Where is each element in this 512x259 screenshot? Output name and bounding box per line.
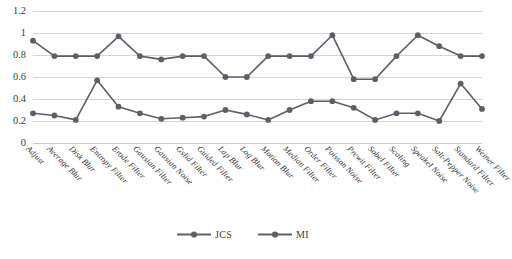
data-point[interactable] [244,74,250,80]
data-point[interactable] [94,77,100,83]
y-axis-tick-label: 0.4 [13,94,26,105]
data-point[interactable] [73,117,79,123]
legend-entry-jcs[interactable]: JCS [177,229,232,240]
data-point[interactable] [458,53,464,59]
data-point[interactable] [479,106,485,112]
legend-marker-jcs [177,229,211,240]
data-point[interactable] [394,110,400,116]
data-point[interactable] [94,53,100,59]
data-point[interactable] [287,107,293,113]
data-point[interactable] [329,98,335,104]
plot-area [33,11,482,143]
legend-entry-mi[interactable]: MI [258,229,309,240]
data-point[interactable] [201,114,207,120]
data-point[interactable] [372,117,378,123]
data-point[interactable] [415,32,421,38]
legend-marker-mi [258,229,292,240]
series-mi [30,77,485,124]
data-point[interactable] [30,38,36,44]
data-point[interactable] [458,81,464,87]
data-point[interactable] [51,53,57,59]
data-point[interactable] [73,53,79,59]
series-layer [33,11,482,143]
data-point[interactable] [137,53,143,59]
data-point[interactable] [265,53,271,59]
data-point[interactable] [287,53,293,59]
data-point[interactable] [351,76,357,82]
data-point[interactable] [116,104,122,110]
y-axis-tick-label: 0.6 [13,72,26,83]
series-line [33,35,482,79]
data-point[interactable] [479,53,485,59]
data-point[interactable] [308,98,314,104]
series-jcs [30,32,485,82]
y-axis-tick-label: 0.8 [13,50,26,61]
data-point[interactable] [329,32,335,38]
data-point[interactable] [415,110,421,116]
x-axis-labels: AdjustAverage BlurDisk BlurEntropy Filte… [33,145,482,217]
data-point[interactable] [351,105,357,111]
legend-label-mi: MI [296,229,309,240]
data-point[interactable] [223,74,229,80]
y-axis-tick-label: 1.2 [13,6,26,17]
data-point[interactable] [51,113,57,119]
chart-legend: JCS MI [0,222,486,246]
data-point[interactable] [244,112,250,118]
data-point[interactable] [158,57,164,63]
x-axis-tick-label: Adjust [24,145,46,167]
data-point[interactable] [436,43,442,49]
data-point[interactable] [394,53,400,59]
data-point[interactable] [180,53,186,59]
data-point[interactable] [180,115,186,121]
data-point[interactable] [30,110,36,116]
data-point[interactable] [308,53,314,59]
y-axis-tick-label: 0 [21,138,26,149]
series-line [33,80,482,121]
y-axis: 00.20.40.60.811.2 [0,11,30,143]
data-point[interactable] [223,107,229,113]
data-point[interactable] [372,76,378,82]
data-point[interactable] [116,33,122,39]
y-axis-tick-label: 1 [21,28,26,39]
data-point[interactable] [265,117,271,123]
data-point[interactable] [137,110,143,116]
legend-label-jcs: JCS [215,229,232,240]
data-point[interactable] [158,116,164,122]
y-axis-tick-label: 0.2 [13,116,26,127]
data-point[interactable] [201,53,207,59]
data-point[interactable] [436,118,442,124]
